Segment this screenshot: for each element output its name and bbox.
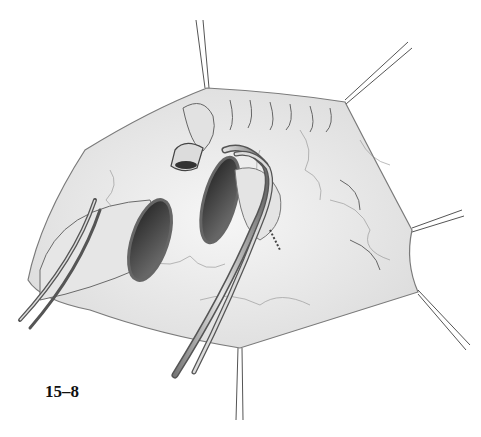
surgical-illustration: [0, 0, 481, 437]
figure-label: 15–8: [45, 382, 79, 402]
